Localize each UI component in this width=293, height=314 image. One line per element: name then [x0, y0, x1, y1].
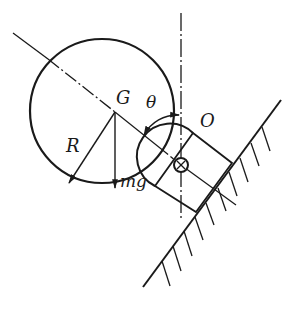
line-G-to-O — [115, 112, 165, 152]
line-G-to-O-dashdot — [48, 59, 115, 112]
label-R: R — [65, 135, 80, 156]
label-G: G — [116, 87, 130, 108]
line-G-to-O-upper — [13, 33, 48, 59]
label-mg: mg — [120, 171, 147, 191]
label-theta: θ — [146, 92, 156, 112]
diagram-canvas: G θ O R mg — [0, 0, 293, 314]
label-O: O — [200, 110, 215, 131]
